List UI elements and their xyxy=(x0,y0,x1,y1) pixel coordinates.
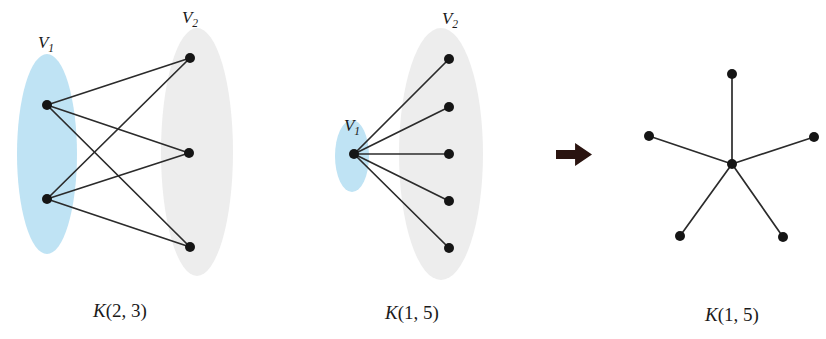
set-label-subscript: 2 xyxy=(452,18,458,30)
caption-panel-k23: K(2, 3) xyxy=(92,300,147,322)
set-label-panel-k23-v1: V1 xyxy=(38,33,54,54)
vertex-panel-k15-bipartite-v2-4 xyxy=(444,243,454,253)
vertex-panel-k15-bipartite-v2-1 xyxy=(444,102,454,112)
vertex-panel-k15-star-star-5 xyxy=(778,232,788,242)
bipartite-graphs-figure: V1V2V1V2 K(2, 3)K(1, 5)K(1, 5) xyxy=(0,0,826,339)
set-label-panel-k23-v2: V2 xyxy=(182,8,198,29)
vertex-panel-k23-v1-0 xyxy=(42,100,52,110)
vertex-panel-k23-v2-0 xyxy=(185,53,195,63)
blob-panel-k23-v1 xyxy=(17,54,77,254)
caption-panel-k15-bipartite: K(1, 5) xyxy=(384,302,439,324)
caption-args: (1, 5) xyxy=(398,302,439,324)
vertex-panel-k15-bipartite-v1-0 xyxy=(349,149,359,159)
set-label-subscript: 2 xyxy=(192,17,198,29)
vertex-panel-k15-bipartite-v2-3 xyxy=(444,196,454,206)
figure-canvas: V1V2V1V2 K(2, 3)K(1, 5)K(1, 5) xyxy=(0,0,826,339)
vertex-panel-k23-v2-2 xyxy=(185,242,195,252)
caption-args: (1, 5) xyxy=(718,304,759,326)
vertex-panel-k15-star-star-3 xyxy=(809,132,819,142)
vertex-panel-k15-star-star-2 xyxy=(644,131,654,141)
set-label-subscript: 1 xyxy=(354,125,360,137)
edge-panel-k15-star-1 xyxy=(649,136,732,164)
vertex-panel-k23-v1-1 xyxy=(42,194,52,204)
panel-captions: K(2, 3)K(1, 5)K(1, 5) xyxy=(92,300,759,326)
vertex-panel-k15-star-star-4 xyxy=(675,231,685,241)
edge-panel-k15-star-2 xyxy=(732,137,814,164)
set-labels: V1V2V1V2 xyxy=(38,8,458,137)
blob-panel-k23-v2 xyxy=(161,28,233,276)
set-label-subscript: 1 xyxy=(48,42,54,54)
vertex-panel-k15-star-star-0 xyxy=(727,159,737,169)
caption-panel-k15-star: K(1, 5) xyxy=(704,304,759,326)
edge-panel-k15-star-4 xyxy=(732,164,783,237)
vertex-panel-k23-v2-1 xyxy=(184,148,194,158)
vertex-panel-k15-bipartite-v2-0 xyxy=(444,54,454,64)
right-arrow-icon xyxy=(556,143,592,166)
caption-args: (2, 3) xyxy=(106,300,147,322)
vertex-panel-k15-star-star-1 xyxy=(727,69,737,79)
set-label-panel-k15-bipartite-v2: V2 xyxy=(442,9,458,30)
vertex-panel-k15-bipartite-v2-2 xyxy=(444,149,454,159)
edge-panel-k15-star-3 xyxy=(680,164,732,236)
set-label-panel-k15-bipartite-v1: V1 xyxy=(344,116,360,137)
right-arrow-shape xyxy=(556,143,592,166)
